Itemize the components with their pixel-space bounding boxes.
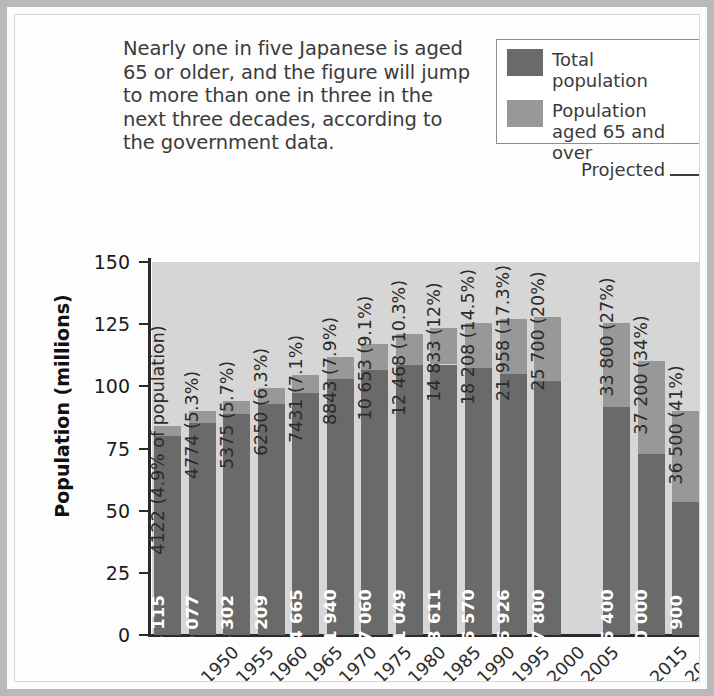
y-tick-mark [139,572,148,574]
legend-item-elderly: Population aged 65 and over [507,100,690,163]
y-tick-mark [139,510,148,512]
projected-annotation: Projected [581,159,665,180]
bar-elderly-value-label: 6250 (6.3%) [251,348,271,456]
y-tick-label: 25 [78,562,130,584]
y-tick-mark [139,634,148,636]
y-tick-label: 50 [78,500,130,522]
legend-item-total: Total population [507,49,690,91]
bar-elderly-value-label: 25 700 (20%) [528,272,548,391]
bar-elderly-value-label: 36 500 (41%) [666,366,686,485]
y-axis-ticks: 0255075100125150 [15,15,148,682]
chart-caption: Nearly one in five Japanese is aged 65 o… [123,37,478,155]
bar-elderly-value-label: 7431 (7.1%) [286,335,306,443]
arrow-right-icon [670,174,700,176]
legend-swatch-total [507,49,543,76]
bar-total-value-label: 110 000 [632,589,651,665]
legend-label-total: Total population [552,49,690,91]
bar-elderly-value-label: 21 958 (17.3%) [493,265,513,401]
bar-elderly-value-label: 4122 (4.9% of population) [148,325,168,554]
y-tick-label: 125 [78,313,130,335]
y-tick-mark [139,323,148,325]
bar-elderly-value-label: 18 208 (14.5%) [458,269,478,405]
y-tick-mark [139,448,148,450]
y-tick-label: 150 [78,251,130,273]
bar-total-value-label: 84 115 [149,595,168,659]
y-tick-label: 0 [78,624,130,646]
legend-label-elderly: Population aged 65 and over [552,100,690,163]
bar-elderly-value-label: 37 200 (34%) [631,316,651,435]
y-tick-label: 100 [78,375,130,397]
bar-elderly-value-label: 5375 (5.7%) [217,360,237,468]
y-tick-mark [139,261,148,263]
bar-elderly-value-label: 10 653 (9.1%) [355,295,375,420]
figure-inner: Nearly one in five Japanese is aged 65 o… [14,14,700,682]
chart-legend: Total population Population aged 65 and … [496,39,700,144]
y-tick-mark [139,385,148,387]
bar-elderly-value-label: 12 468 (10.3%) [389,280,409,416]
bar-total-value-label: 90 077 [183,595,202,659]
bar-elderly-value-label: 33 800 (27%) [597,277,617,396]
bar-elderly-value-label: 8843 (7.9%) [320,317,340,425]
legend-swatch-elderly [507,100,543,127]
bar-elderly-value-label: 14 833 (12%) [424,282,444,401]
y-tick-label: 75 [78,438,130,460]
figure-frame: Nearly one in five Japanese is aged 65 o… [0,0,714,696]
bar-elderly-value-label: 4774 (5.3%) [182,371,202,479]
